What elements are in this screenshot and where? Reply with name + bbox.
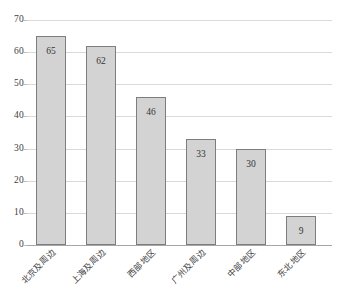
bar: 65	[36, 36, 66, 245]
bar-series: 65 62 46 33 30 9	[27, 20, 332, 245]
x-axis: 北京及周边 上海及周边 西部地区 广州及周边 中部地区 东北地区	[27, 246, 332, 303]
bar: 33	[186, 139, 216, 245]
bar: 30	[236, 149, 266, 245]
bar-chart: 70 60 50 40 30 20 10 0 65	[0, 0, 337, 303]
x-tick-group: 广州及周边	[186, 246, 216, 303]
y-tick-label: 0	[0, 240, 24, 250]
y-tick-label: 70	[0, 15, 24, 25]
y-tick-label: 60	[0, 47, 24, 57]
bar: 46	[136, 97, 166, 245]
bar-group: 62	[86, 20, 116, 245]
bar: 9	[286, 216, 316, 245]
bar: 62	[86, 46, 116, 245]
bar-group: 65	[36, 20, 66, 245]
bar-group: 30	[236, 20, 266, 245]
y-tick-label: 30	[0, 144, 24, 154]
x-tick-group: 上海及周边	[86, 246, 116, 303]
bar-value-label: 33	[187, 149, 215, 159]
bar-group: 33	[186, 20, 216, 245]
bar-value-label: 62	[87, 56, 115, 66]
x-tick-group: 东北地区	[286, 246, 316, 303]
x-tick-label: 东北地区	[276, 248, 307, 279]
y-tick-label: 10	[0, 208, 24, 218]
bar-value-label: 9	[287, 226, 315, 236]
bar-value-label: 65	[37, 46, 65, 56]
x-tick-label: 西部地区	[126, 248, 157, 279]
x-tick-label: 北京及周边	[20, 248, 57, 285]
bar-group: 9	[286, 20, 316, 245]
x-tick-label: 广州及周边	[170, 248, 207, 285]
x-tick-group: 西部地区	[136, 246, 166, 303]
bar-value-label: 46	[137, 107, 165, 117]
y-axis: 70 60 50 40 30 20 10 0	[0, 20, 24, 245]
bar-value-label: 30	[237, 159, 265, 169]
x-tick-group: 中部地区	[236, 246, 266, 303]
y-tick-label: 40	[0, 111, 24, 121]
bar-group: 46	[136, 20, 166, 245]
x-tick-label: 上海及周边	[70, 248, 107, 285]
y-tick-label: 50	[0, 79, 24, 89]
x-tick-group: 北京及周边	[36, 246, 66, 303]
x-tick-label: 中部地区	[226, 248, 257, 279]
y-tick-label: 20	[0, 176, 24, 186]
